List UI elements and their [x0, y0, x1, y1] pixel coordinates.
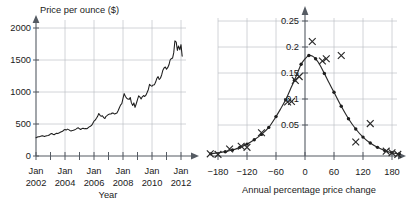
gold-price-chart-panel: 2000 1500 1000 500 0 Price per ounce ($)… [0, 0, 205, 199]
curve-point-dot [314, 57, 317, 60]
x-tick-year-2010: 2010 [142, 178, 163, 188]
observed-data-crosses [207, 38, 401, 158]
price-change-distribution-panel: 0.25 0.2 0.15 0.1 0.05 −180 −120 −60 0 6… [205, 0, 409, 199]
x-tick-label-0: 0 [302, 167, 307, 177]
x-tick-month-2012: Jan [174, 166, 189, 176]
curve-point-dot [340, 105, 343, 108]
horizontal-gridlines [36, 28, 186, 124]
x-tick-year-2012: 2012 [171, 178, 192, 188]
curve-point-dot [354, 127, 357, 130]
observed-point-cross [352, 139, 359, 146]
y-tick-label-1000: 1000 [10, 87, 31, 97]
y-axis-arrow [302, 6, 309, 15]
x-tick-label-minus60: −60 [268, 167, 284, 177]
x-tick-month-2006: Jan [87, 166, 102, 176]
y-axis-arrow [33, 15, 40, 23]
vertical-gridlines [65, 20, 181, 156]
observed-point-cross [367, 120, 374, 127]
x-tick-label-2006: Jan 2006 [84, 166, 105, 188]
y-axis [302, 6, 309, 156]
gold-price-chart-svg: 2000 1500 1000 500 0 Price per ounce ($)… [0, 0, 205, 199]
x-tick-label-180: 180 [384, 167, 400, 177]
y-tick-label-0.05: 0.05 [281, 120, 299, 130]
y-axis-title: Price per ounce ($) [40, 5, 119, 15]
x-tick-label-60: 60 [329, 167, 339, 177]
x-axis-arrow [191, 153, 199, 160]
x-tick-label-minus180: −180 [208, 167, 229, 177]
x-tick-year-2002: 2002 [26, 178, 47, 188]
x-axis [36, 153, 199, 160]
curve-point-dot [245, 142, 248, 145]
x-tick-month-2002: Jan [29, 166, 44, 176]
x-tick-label-2010: Jan 2010 [142, 166, 163, 188]
gold-price-line [36, 41, 182, 138]
y-tick-label-500: 500 [15, 119, 31, 129]
curve-point-dot [299, 62, 302, 65]
curve-point-dot [274, 115, 277, 118]
curve-point-dot [332, 91, 335, 94]
x-tick-month-2004: Jan [58, 166, 73, 176]
y-tick-label-2000: 2000 [10, 23, 31, 33]
y-tick-label-1500: 1500 [10, 55, 31, 65]
y-axis [33, 15, 40, 156]
x-tick-year-2008: 2008 [113, 178, 134, 188]
curve-point-dot [376, 146, 379, 149]
curve-point-dot [347, 117, 350, 120]
y-tick-label-0.2: 0.2 [286, 42, 299, 52]
observed-point-cross [338, 52, 345, 59]
x-tick-month-2008: Jan [116, 166, 131, 176]
observed-point-cross [309, 38, 316, 45]
distribution-chart-svg: 0.25 0.2 0.15 0.1 0.05 −180 −120 −60 0 6… [205, 0, 409, 199]
x-tick-label-2012: Jan 2012 [171, 166, 192, 188]
y-tick-label-0.25: 0.25 [281, 16, 299, 26]
x-tick-label-2008: Jan 2008 [113, 166, 134, 188]
figure-root: 2000 1500 1000 500 0 Price per ounce ($)… [0, 0, 409, 199]
curve-point-dot [361, 135, 364, 138]
curve-point-dot [369, 141, 372, 144]
x-tick-label-2004: Jan 2004 [55, 166, 76, 188]
x-tick-year-2004: 2004 [55, 178, 76, 188]
x-tick-label-2002: Jan 2002 [26, 166, 47, 188]
x-axis-title: Year [99, 190, 118, 199]
x-tick-month-2010: Jan [145, 166, 160, 176]
y-tick-label-0: 0 [26, 151, 31, 161]
x-tick-year-2006: 2006 [84, 178, 105, 188]
x-axis [213, 153, 406, 160]
curve-point-dot [267, 126, 270, 129]
curve-point-dot [253, 138, 256, 141]
x-tick-label-minus120: −120 [237, 167, 258, 177]
curve-point-dot [323, 72, 326, 75]
curve-point-dot [307, 54, 310, 57]
x-tick-label-120: 120 [355, 167, 371, 177]
x-axis-title: Annual percentage price change [242, 185, 376, 195]
